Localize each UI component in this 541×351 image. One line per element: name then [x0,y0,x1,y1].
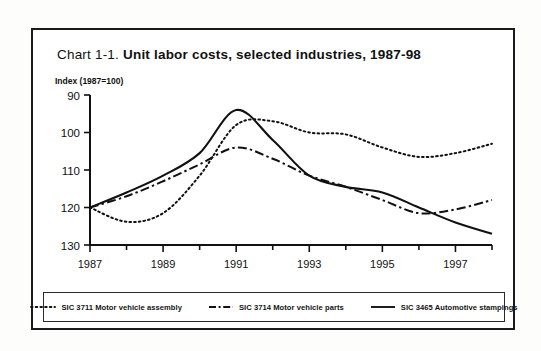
legend-entry-2[interactable]: SIC 3714 Motor vehicle parts [208,303,344,312]
x-tick-label: 1993 [297,258,321,270]
y-tick-label: 100 [61,127,80,139]
x-tick-label: 1991 [224,258,248,270]
chart-legend: SIC 3711 Motor vehicle assemblySIC 3714 … [43,292,505,322]
x-tick-label: 1989 [151,258,175,270]
legend-label: SIC 3711 Motor vehicle assembly [61,303,182,312]
dashdot-line-swatch [208,303,234,311]
x-axis-tick-labels: 198719891991199319951997 [78,258,468,270]
series-line-3 [90,110,492,234]
series-line-1 [90,119,492,222]
x-axis-ticks [90,245,492,252]
y-tick-label: 130 [61,240,80,252]
legend-label: SIC 3714 Motor vehicle parts [239,303,344,312]
legend-entries: SIC 3711 Motor vehicle assemblySIC 3714 … [44,293,504,321]
data-series-group [90,110,492,234]
x-tick-label: 1997 [443,258,467,270]
dotted-line-swatch [30,303,56,311]
x-tick-label: 1987 [78,258,102,270]
chart-figure-frame: Chart 1-1. Unit labor costs, selected in… [31,28,515,330]
legend-label: SIC 3465 Automotive stampings [401,303,518,312]
solid-line-swatch [370,303,396,311]
legend-entry-1[interactable]: SIC 3711 Motor vehicle assembly [30,303,182,312]
line-chart-plot: 13012011010090 198719891991199319951997 [33,30,517,332]
legend-entry-3[interactable]: SIC 3465 Automotive stampings [370,303,518,312]
y-axis-tick-labels: 13012011010090 [61,90,80,252]
y-tick-label: 90 [67,90,80,102]
page-background: Chart 1-1. Unit labor costs, selected in… [0,0,541,351]
axis-lines [90,95,492,245]
y-tick-label: 120 [61,202,80,214]
x-tick-label: 1995 [370,258,394,270]
y-tick-label: 110 [62,165,80,177]
